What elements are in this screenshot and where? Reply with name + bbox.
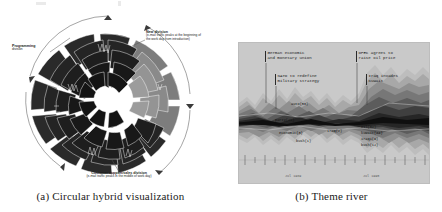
axis-year-1989: Jul 1989: [285, 174, 301, 178]
event-note-iraq-invades-kuwait: Iraq invades Kuwait: [366, 74, 398, 85]
figure-a-panel: Programming division New division (e-mai…: [0, 0, 221, 212]
theme-river-chart: [239, 43, 429, 183]
figure-b-caption: (b) Theme river: [221, 190, 442, 202]
stream-label-iraqi: iraqi(9): [361, 137, 378, 141]
event-note-german-union: German economic and monetary union: [265, 51, 312, 62]
event-note-opec-oil-price: OPEC agrees to raise oil price: [356, 51, 395, 62]
annotation-customer-support-division: Customer support/sales division (e-mail …: [76, 171, 162, 179]
stream-label-kuwait: kuwait(44): [361, 131, 383, 135]
stream-label-bush: bush(1): [296, 139, 311, 143]
annotation-programming-division: Programming division: [12, 44, 52, 52]
annotation-body: (e-mail traffic peaks at the beginning o…: [146, 34, 202, 41]
stream-label-oil: oil(62): [361, 125, 376, 129]
stream-label-economic: economic(3): [279, 131, 303, 135]
annotation-new-division: New division (e-mail traffic peaks at th…: [146, 30, 202, 41]
stream-label-auto: auto(56): [291, 102, 308, 106]
annotation-body: (e-mail traffic peaks in the middle of w…: [76, 175, 162, 179]
axis-year-1990: Jul 1990: [363, 174, 379, 178]
event-note-nato-strategy: NATO to redefine military strategy: [275, 74, 319, 85]
figure-page: Programming division New division (e-mai…: [0, 0, 442, 212]
stream-label-bush-late: bush(12): [361, 143, 378, 147]
figure-b-panel: German economic and monetary union OPEC …: [221, 0, 442, 212]
annotation-body: division: [12, 48, 52, 52]
callout-leaders: [0, 0, 221, 190]
theme-river-visualization: German economic and monetary union OPEC …: [238, 42, 430, 184]
figure-a-caption: (a) Circular hybrid visualization: [0, 190, 221, 202]
stream-label-party: party(21): [275, 118, 294, 122]
stream-label-iraq: iraq(2): [327, 129, 342, 133]
